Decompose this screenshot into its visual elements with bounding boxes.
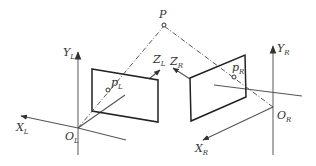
label-OR: OR	[277, 109, 292, 124]
label-XR: XR	[194, 142, 209, 157]
label-P: P	[158, 8, 167, 21]
label-YR: YR	[277, 42, 290, 57]
label-ZL: ZL	[152, 53, 166, 68]
left-image-point	[106, 88, 110, 92]
world-point	[162, 23, 166, 27]
stereo-vision-diagram: P pL YL XL OL ZL ZR pR YR OR XR	[0, 0, 316, 166]
label-pR: pR	[232, 61, 245, 76]
left-camera	[21, 26, 164, 155]
label-YL: YL	[63, 46, 75, 61]
right-baseline	[214, 85, 302, 96]
label-XL: XL	[15, 121, 29, 136]
label-OL: OL	[65, 130, 79, 145]
left-z-axis-outer	[149, 70, 160, 79]
left-z-axis	[78, 95, 125, 128]
label-ZR: ZR	[169, 55, 184, 70]
left-x-axis	[21, 116, 78, 128]
left-baseline	[78, 128, 126, 140]
label-pL: pL	[111, 76, 123, 91]
right-image-point	[232, 75, 236, 79]
